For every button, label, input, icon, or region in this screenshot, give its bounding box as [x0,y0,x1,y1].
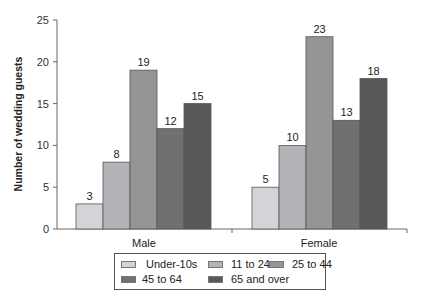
bars: 38191215510231318 [76,23,387,229]
bar-value-label: 12 [164,115,176,127]
legend-label: 45 to 64 [142,273,182,285]
legend-item-under-10s: Under-10s [121,258,197,270]
bar-value-label: 23 [313,23,325,35]
legend-label: 25 to 44 [292,258,332,270]
y-tick-label: 5 [43,181,49,193]
bar-male-45-to-64 [157,129,184,229]
legend-swatch-icon [269,261,284,268]
y-tick-label: 10 [37,139,49,151]
legend-item-25-to-44: 25 to 44 [269,258,332,270]
y-tick-label: 25 [37,14,49,26]
bar-female-25-to-44 [306,37,333,229]
bar-female-65-and-over [360,79,387,229]
bar-value-label: 10 [286,131,298,143]
legend-swatch-icon [208,276,223,283]
bar-male-65-and-over [184,104,211,229]
bar-value-label: 18 [367,65,379,77]
legend-swatch-icon [121,276,136,283]
category-label-female: Female [301,237,338,249]
bar-value-label: 3 [86,190,92,202]
bar-male-25-to-44 [130,70,157,229]
legend-item-65-and-over: 65 and over [208,273,289,285]
bar-female-11-to-24 [279,145,306,229]
legend-label: 11 to 24 [231,258,270,270]
legend-swatch-icon [121,261,136,268]
bar-female-under-10s [252,187,279,229]
bar-value-label: 15 [191,90,203,102]
legend-label: Under-10s [146,258,197,270]
y-tick-label: 15 [37,98,49,110]
legend-item-45-to-64: 45 to 64 [121,273,182,285]
category-label-male: Male [132,237,156,249]
legend-label: 65 and over [231,273,289,285]
bar-value-label: 19 [137,56,149,68]
legend-item-11-to-24: 11 to 24 [208,258,270,270]
bar-value-label: 8 [113,148,119,160]
legend-swatch-icon [208,261,223,268]
bar-value-label: 13 [340,106,352,118]
y-tick-label: 20 [37,56,49,68]
bar-female-45-to-64 [333,120,360,229]
bar-male-under-10s [76,204,103,229]
legend: Under-10s 11 to 24 25 to 44 45 to 64 65 … [114,253,326,290]
bar-male-11-to-24 [103,162,130,229]
y-ticks: 0510152025 [37,14,57,235]
bar-value-label: 5 [262,173,268,185]
y-axis-label: Number of wedding guests [12,56,24,191]
y-tick-label: 0 [43,223,49,235]
